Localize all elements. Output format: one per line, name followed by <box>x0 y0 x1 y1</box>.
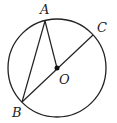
label-c: C <box>97 20 107 35</box>
segment-ab <box>22 21 45 102</box>
center-point <box>55 66 60 71</box>
label-o: O <box>59 72 70 87</box>
label-b: B <box>11 105 22 120</box>
segment-ao <box>45 21 57 68</box>
circle-diagram: A C O B <box>0 0 117 123</box>
label-a: A <box>39 2 49 17</box>
